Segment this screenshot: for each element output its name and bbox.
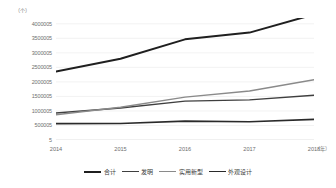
x-axis-tick-label: 2016 — [179, 146, 191, 152]
legend-swatch-icon — [159, 171, 176, 173]
legend-swatch-icon — [84, 171, 101, 173]
y-axis-tick-label: 2500005 — [8, 64, 52, 70]
y-axis-tick-label: 4000005 — [8, 21, 52, 27]
x-axis-tick-label: 2017 — [243, 146, 255, 152]
y-axis-tick-label: 1000005 — [8, 108, 52, 114]
chart-legend: 合计发明实用新型外观设计 — [0, 167, 336, 176]
legend-item[interactable]: 实用新型 — [159, 167, 203, 176]
y-axis-tick-label: 3000005 — [8, 50, 52, 56]
legend-item[interactable]: 发明 — [122, 167, 154, 176]
y-axis-tick-label: 2000005 — [8, 79, 52, 85]
plot-svg — [56, 18, 314, 140]
legend-label: 外观设计 — [228, 167, 252, 176]
line-chart: （个） 550000510000051500005200000525000053… — [0, 0, 336, 188]
legend-item[interactable]: 外观设计 — [209, 167, 253, 176]
series-line — [56, 18, 314, 71]
y-axis-tick-label: 5 — [8, 137, 52, 143]
x-axis-tick-label: 2015 — [114, 146, 126, 152]
legend-swatch-icon — [209, 171, 226, 173]
y-axis-tick-labels: 5500005100000515000052000005250000530000… — [0, 0, 52, 188]
x-axis-unit-label: （年） — [315, 145, 330, 152]
legend-label: 合计 — [104, 167, 116, 176]
legend-swatch-icon — [122, 171, 139, 173]
y-axis-tick-label: 1500005 — [8, 93, 52, 99]
y-axis-tick-label: 3500005 — [8, 35, 52, 41]
legend-item[interactable]: 合计 — [84, 167, 116, 176]
legend-label: 实用新型 — [179, 167, 203, 176]
series-line — [56, 119, 314, 123]
legend-label: 发明 — [141, 167, 153, 176]
plot-area — [56, 18, 314, 140]
y-axis-tick-label: 500005 — [8, 122, 52, 128]
x-axis-tick-label: 2014 — [50, 146, 62, 152]
